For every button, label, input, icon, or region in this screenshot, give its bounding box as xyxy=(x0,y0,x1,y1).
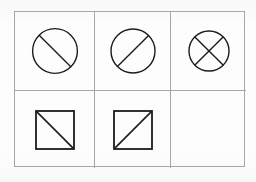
matrix-cell-r1c2[interactable] xyxy=(95,12,171,91)
square-slash-icon xyxy=(111,108,155,152)
circle-backslash-icon xyxy=(30,26,80,76)
square-backslash-icon xyxy=(33,108,77,152)
circle-cross-figure xyxy=(186,28,232,74)
matrix-cell-r2c1[interactable] xyxy=(15,91,95,168)
square-slash-figure xyxy=(111,108,155,152)
circle-slash-icon xyxy=(108,26,158,76)
circle-slash-figure xyxy=(108,26,158,76)
square-backslash-figure xyxy=(33,108,77,152)
matrix-puzzle-root xyxy=(0,0,256,182)
matrix-cell-r2c3-empty[interactable] xyxy=(171,91,246,168)
empty-cell-icon xyxy=(171,91,246,168)
circle-backslash-figure xyxy=(30,26,80,76)
matrix-grid xyxy=(14,11,245,167)
matrix-cell-r1c3[interactable] xyxy=(171,12,246,91)
matrix-cell-r2c2[interactable] xyxy=(95,91,171,168)
matrix-cell-r1c1[interactable] xyxy=(15,12,95,91)
circle-cross-icon xyxy=(186,28,232,74)
